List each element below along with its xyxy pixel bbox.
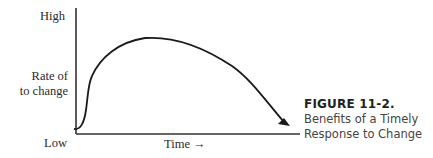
x-axis-title: Time →: [164, 137, 206, 152]
figure-caption-line2: Response to Change: [304, 127, 422, 141]
y-axis-title-line1: Rate of: [14, 69, 68, 84]
y-axis-title-line2: to change: [14, 84, 68, 99]
arrowhead-icon: [278, 118, 290, 126]
y-axis-low-label: Low: [44, 136, 67, 151]
curve-line: [74, 38, 284, 129]
y-axis-title: Rate of to change: [14, 69, 68, 99]
y-axis-high-label: High: [40, 9, 65, 24]
figure-caption-line1: Benefits of a Timely: [304, 112, 418, 126]
figure-number: FIGURE 11-2.: [304, 97, 395, 111]
